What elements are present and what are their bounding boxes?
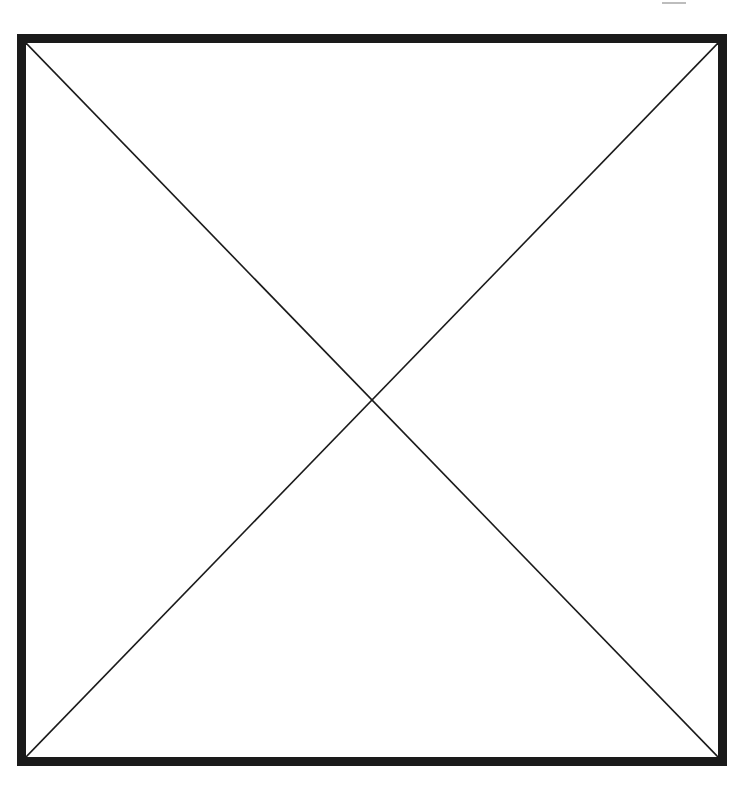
cross-lines	[26, 43, 718, 757]
scan-artifact-line	[662, 2, 686, 4]
placeholder-frame	[17, 34, 727, 766]
